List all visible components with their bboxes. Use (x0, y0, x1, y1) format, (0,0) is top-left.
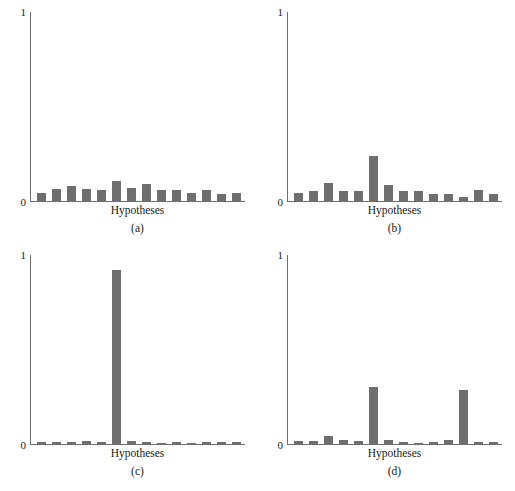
bar (97, 442, 106, 444)
plot-area-a: 1 0 (30, 12, 245, 202)
bar (414, 191, 423, 201)
bar (37, 442, 46, 444)
bar (459, 197, 468, 201)
plot-area-c: 1 0 (30, 255, 245, 445)
panel-b: 1 0 Hypotheses (b) (257, 0, 515, 245)
y-tick-bottom-a: 0 (6, 197, 26, 208)
bar (354, 191, 363, 201)
bar (309, 441, 318, 444)
bar (97, 190, 106, 201)
panel-caption-b: (b) (287, 222, 502, 234)
bar (127, 441, 136, 444)
bar (142, 442, 151, 444)
bar (444, 440, 453, 444)
bar (489, 194, 498, 201)
bar (202, 190, 211, 201)
bar (217, 442, 226, 444)
bar (324, 183, 333, 201)
panel-caption-c: (c) (30, 465, 245, 477)
panel-caption-a: (a) (30, 222, 245, 234)
bar (217, 194, 226, 201)
bar (399, 442, 408, 444)
y-tick-top-a: 1 (6, 7, 26, 18)
x-axis-label-b: Hypotheses (287, 204, 502, 216)
y-tick-top-d: 1 (263, 250, 283, 261)
x-axis-b (287, 201, 502, 202)
panel-c: 1 0 Hypotheses (c) (0, 245, 257, 491)
bar (429, 194, 438, 201)
y-tick-bottom-b: 0 (263, 197, 283, 208)
bar (294, 193, 303, 201)
y-tick-bottom-d: 0 (263, 440, 283, 451)
y-tick-bottom-c: 0 (6, 440, 26, 451)
bar (489, 442, 498, 444)
bars-a (31, 12, 245, 201)
bar (172, 442, 181, 444)
bar (444, 194, 453, 201)
x-axis-d (287, 444, 502, 445)
bar (112, 181, 121, 201)
bar (339, 191, 348, 201)
bar (52, 189, 61, 201)
bar (82, 189, 91, 201)
bars-d (288, 255, 502, 444)
x-axis-label-d: Hypotheses (287, 447, 502, 459)
bar (294, 441, 303, 444)
panel-caption-d: (d) (287, 465, 502, 477)
bars-c (31, 255, 245, 444)
bars-b (288, 12, 502, 201)
bar (384, 440, 393, 444)
bar (474, 442, 483, 444)
bar (414, 443, 423, 445)
four-panel-bar-figure: 1 0 Hypotheses (a) 1 0 Hypotheses (b) 1 … (0, 0, 515, 491)
bar (157, 190, 166, 201)
bar (112, 270, 121, 444)
bar (369, 156, 378, 201)
x-axis-c (30, 444, 245, 445)
bar (172, 190, 181, 201)
plot-area-b: 1 0 (287, 12, 502, 202)
bar (187, 193, 196, 201)
bar (339, 440, 348, 444)
y-tick-top-c: 1 (6, 250, 26, 261)
bar (67, 442, 76, 444)
bar (67, 186, 76, 201)
bar (232, 193, 241, 201)
panel-a: 1 0 Hypotheses (a) (0, 0, 257, 245)
x-axis-label-a: Hypotheses (30, 204, 245, 216)
bar (429, 442, 438, 444)
bar (187, 443, 196, 445)
bar (37, 193, 46, 202)
bar (127, 188, 136, 201)
bar (384, 185, 393, 201)
bar (142, 184, 151, 201)
bar (354, 441, 363, 444)
bar (474, 190, 483, 201)
bar (309, 191, 318, 201)
x-axis-a (30, 201, 245, 202)
x-axis-label-c: Hypotheses (30, 447, 245, 459)
bar (399, 191, 408, 201)
y-tick-top-b: 1 (263, 7, 283, 18)
bar (157, 443, 166, 445)
bar (82, 441, 91, 444)
plot-area-d: 1 0 (287, 255, 502, 445)
bar (202, 442, 211, 444)
bar (459, 390, 468, 444)
bar (369, 387, 378, 444)
panel-d: 1 0 Hypotheses (d) (257, 245, 515, 491)
bar (52, 442, 61, 444)
bar (232, 442, 241, 444)
bar (324, 436, 333, 444)
